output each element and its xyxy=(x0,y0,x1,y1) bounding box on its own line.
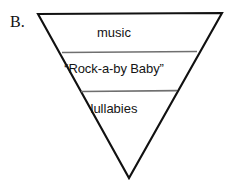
tier-label-lullabies: lullabies xyxy=(0,101,228,117)
tier-divider-1 xyxy=(62,52,197,53)
tier-divider-2 xyxy=(81,91,177,92)
figure-panel-b: B. music “Rock-a-by Baby” lullabies xyxy=(0,0,228,182)
tier-label-rock-a-by-baby: “Rock-a-by Baby” xyxy=(0,61,228,77)
tier-label-music: music xyxy=(0,25,228,41)
